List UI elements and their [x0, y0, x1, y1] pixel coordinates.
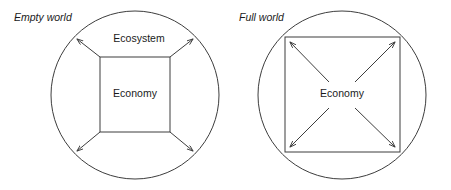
growth-arrow-up-right-empty-world	[170, 39, 193, 57]
economy-label-empty-world: Economy	[113, 87, 158, 99]
growth-arrow-up-left-full-world	[290, 42, 329, 82]
growth-arrow-down-left-empty-world	[77, 132, 100, 151]
panel-title-full-world: Full world	[239, 11, 285, 23]
growth-arrow-down-right-empty-world	[170, 132, 193, 151]
diagram-canvas: Empty world Ecosystem Economy Full world…	[0, 0, 451, 190]
ecosystem-label-empty-world: Ecosystem	[113, 32, 165, 44]
panel-empty-world: Empty world Ecosystem Economy	[14, 11, 219, 179]
economy-label-full-world: Economy	[320, 87, 365, 99]
panel-title-empty-world: Empty world	[14, 11, 73, 23]
growth-arrow-up-left-empty-world	[77, 39, 100, 57]
growth-arrow-down-left-full-world	[290, 108, 329, 147]
panel-full-world: Full world Economy	[239, 11, 426, 179]
empty-world-full-world-diagram: Empty world Ecosystem Economy Full world…	[0, 0, 451, 190]
growth-arrow-up-right-full-world	[355, 42, 395, 82]
growth-arrow-down-right-full-world	[355, 108, 395, 147]
